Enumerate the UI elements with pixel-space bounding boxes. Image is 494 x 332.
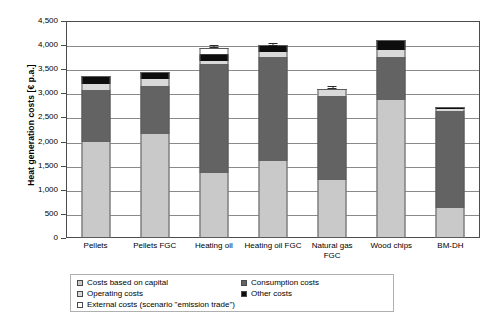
bar-group[interactable] <box>184 21 243 238</box>
y-tick-label: 3,000 <box>0 89 58 97</box>
legend-label: Operating costs <box>87 289 143 299</box>
bar-group[interactable] <box>362 21 421 238</box>
bar-group[interactable] <box>303 21 362 238</box>
y-tick-label: 4,000 <box>0 41 58 49</box>
x-tick-label: Pellets FGC <box>125 241 184 251</box>
legend-item[interactable]: Costs based on capital <box>77 278 168 288</box>
legend-swatch-icon <box>77 302 83 308</box>
bar-segment[interactable] <box>318 180 347 238</box>
cropped-title-remnant <box>0 0 494 3</box>
legend-swatch-icon <box>241 291 247 297</box>
legend-item[interactable]: Other costs <box>241 289 292 299</box>
x-tick-label: Heating oil <box>184 241 243 251</box>
bar-segment[interactable] <box>140 86 169 134</box>
x-tick-label: BM-DH <box>421 241 480 251</box>
bar-segment[interactable] <box>199 64 228 173</box>
bar-stack[interactable] <box>199 48 228 238</box>
legend-item[interactable]: External costs (scenario "emission trade… <box>77 300 235 310</box>
bar-segment[interactable] <box>436 208 465 238</box>
error-bar <box>268 43 277 46</box>
x-tick-label: Heating oil FGC <box>243 241 302 251</box>
bar-stack[interactable] <box>377 40 406 238</box>
bar-segment[interactable] <box>81 142 110 238</box>
x-tick-label: Wood chips <box>362 241 421 251</box>
legend-swatch-icon <box>241 280 247 286</box>
legend-label: Other costs <box>251 289 292 299</box>
bar-segment[interactable] <box>140 79 169 86</box>
bar-segment[interactable] <box>140 72 169 80</box>
error-bar <box>209 45 218 49</box>
bar-stack[interactable] <box>436 107 465 238</box>
bar-segment[interactable] <box>81 76 110 85</box>
bar-segment[interactable] <box>140 134 169 238</box>
error-bar <box>328 86 337 89</box>
y-tick-label: 2,500 <box>0 113 58 121</box>
y-tick-label: 1,500 <box>0 162 58 170</box>
x-tick-label: Pellets <box>66 241 125 251</box>
legend-label: Costs based on capital <box>87 278 168 288</box>
bar-segment[interactable] <box>199 173 228 238</box>
bar-segment[interactable] <box>377 100 406 238</box>
y-tick-label: 3,500 <box>0 65 58 73</box>
y-tick-label: 4,500 <box>0 17 58 25</box>
bar-stack[interactable] <box>258 45 287 238</box>
legend-label: External costs (scenario "emission trade… <box>87 300 235 310</box>
x-axis-labels: PelletsPellets FGCHeating oilHeating oil… <box>66 241 480 267</box>
legend-swatch-icon <box>77 291 83 297</box>
bar-group[interactable] <box>66 21 125 238</box>
bar-segment[interactable] <box>436 111 465 208</box>
bar-segment[interactable] <box>377 57 406 100</box>
x-tick-label: Natural gas FGC <box>303 241 362 261</box>
legend-item[interactable]: Consumption costs <box>241 278 319 288</box>
legend-label: Consumption costs <box>251 278 319 288</box>
bar-stack[interactable] <box>81 76 110 238</box>
bar-segment[interactable] <box>318 96 347 180</box>
chart-legend: Costs based on capitalConsumption costsO… <box>70 274 394 312</box>
stacked-bar-chart: Heat generation costs [€ p.a.] 4,5004,00… <box>0 0 494 332</box>
y-tick-label: 500 <box>0 210 58 218</box>
bars-layer <box>66 21 480 238</box>
bar-stack[interactable] <box>140 72 169 238</box>
bar-stack[interactable] <box>318 89 347 238</box>
bar-segment[interactable] <box>199 48 228 56</box>
bar-segment[interactable] <box>258 45 287 52</box>
y-axis-title: Heat generation costs [€ p.a.] <box>26 20 36 230</box>
bar-segment[interactable] <box>258 57 287 161</box>
y-tick-label: 1,000 <box>0 186 58 194</box>
bar-group[interactable] <box>125 21 184 238</box>
bar-segment[interactable] <box>81 90 110 141</box>
y-tick-label: 0 <box>0 234 58 242</box>
legend-swatch-icon <box>77 280 83 286</box>
y-tick-label: 2,000 <box>0 138 58 146</box>
bar-segment[interactable] <box>258 161 287 238</box>
bar-group[interactable] <box>243 21 302 238</box>
legend-item[interactable]: Operating costs <box>77 289 143 299</box>
bar-group[interactable] <box>421 21 480 238</box>
bar-segment[interactable] <box>377 40 406 50</box>
y-tick-mark <box>61 238 66 239</box>
